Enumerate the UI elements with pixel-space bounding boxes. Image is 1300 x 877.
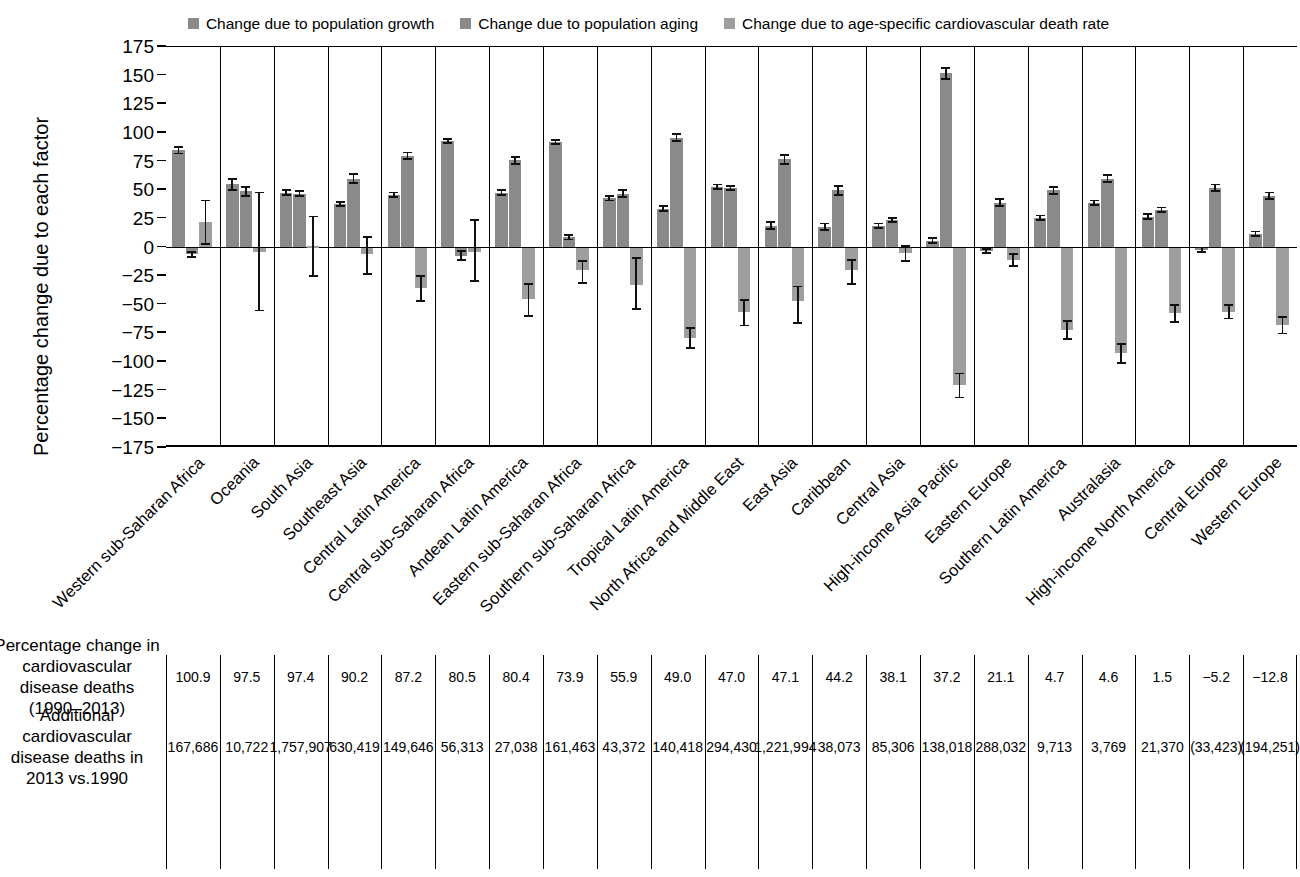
error-bar-cap-upper: [605, 195, 614, 197]
y-tick-mark: [157, 74, 166, 76]
bar-series2: [670, 138, 683, 248]
table-column-divider: [974, 655, 975, 869]
error-bar-cap-lower: [174, 153, 183, 155]
table-cell: 1.5: [1153, 669, 1172, 685]
bar-series1: [603, 198, 616, 247]
error-bar-cap-lower: [497, 194, 506, 196]
legend-item-3: Change due to age-specific cardiovascula…: [724, 16, 1109, 31]
bar-series1: [280, 193, 293, 248]
error-bar-cap-upper: [659, 205, 668, 207]
y-tick-label: 0: [143, 237, 154, 256]
error-bar-line: [1066, 321, 1068, 339]
error-bar-cap-lower: [255, 310, 264, 312]
error-bar-cap-lower: [766, 228, 775, 230]
error-bar-cap-upper: [295, 190, 304, 192]
error-bar-cap-lower: [847, 283, 856, 285]
error-bar-cap-upper: [228, 178, 237, 180]
table-cell: 44.2: [826, 669, 853, 685]
error-bar-cap-lower: [1170, 321, 1179, 323]
error-bar-cap-lower: [1036, 219, 1045, 221]
y-tick-label: −125: [111, 380, 154, 399]
table-cell: 43,372: [602, 739, 645, 755]
error-bar-cap-lower: [740, 325, 749, 327]
error-bar-cap-lower: [982, 252, 991, 254]
error-bar-line: [1282, 317, 1284, 333]
error-bar-cap-lower: [659, 210, 668, 212]
y-tick-label: 175: [122, 37, 154, 56]
bar-series1: [711, 187, 724, 248]
error-bar-cap-upper: [686, 327, 695, 329]
error-bar-cap-lower: [564, 239, 573, 241]
table-cell: −12.8: [1252, 669, 1287, 685]
table-cell: 10,722: [225, 739, 268, 755]
table-cell: 97.4: [287, 669, 314, 685]
bar-series3: [684, 248, 697, 339]
table-cell: 1,221,994: [754, 739, 816, 755]
error-bar-cap-lower: [416, 300, 425, 302]
table-cell: 87.2: [395, 669, 422, 685]
table-cell: 27,038: [495, 739, 538, 755]
y-tick-mark: [157, 446, 166, 448]
bar-series1: [226, 184, 239, 247]
error-bar-cap-upper: [793, 286, 802, 288]
error-bar-cap-lower: [726, 189, 735, 191]
bar-series1: [388, 195, 401, 248]
x-axis-label: Western sub-Saharan Africa: [49, 453, 208, 612]
table-column-divider: [543, 655, 544, 869]
error-bar-cap-lower: [1049, 193, 1058, 195]
table-cell: 38.1: [879, 669, 906, 685]
error-bar-cap-lower: [443, 142, 452, 144]
error-bar-cap-upper: [941, 67, 950, 69]
error-bar-cap-upper: [457, 250, 466, 252]
error-bar-cap-upper: [187, 251, 196, 253]
error-bar-cap-upper: [363, 236, 372, 238]
error-bar-line: [959, 374, 961, 398]
bar-series1: [172, 150, 185, 247]
bar-series2: [1155, 210, 1168, 248]
error-bar-cap-lower: [1090, 204, 1099, 206]
error-bar-line: [851, 260, 853, 284]
error-bar-cap-upper: [1170, 304, 1179, 306]
bar-series1: [657, 209, 670, 248]
error-bar-cap-upper: [1009, 253, 1018, 255]
y-tick-mark: [157, 160, 166, 162]
error-bar-line: [635, 258, 637, 310]
error-bar-cap-lower: [874, 227, 883, 229]
error-bar-cap-upper: [713, 184, 722, 186]
table-column-divider: [381, 655, 382, 869]
bar-series1: [334, 204, 347, 248]
bar-series2: [1101, 179, 1114, 248]
table-cell: 37.2: [933, 669, 960, 685]
table-cell: 630,419: [329, 739, 380, 755]
error-bar-cap-lower: [1265, 198, 1274, 200]
error-bar-cap-upper: [564, 234, 573, 236]
x-axis-labels: Western sub-Saharan AfricaOceaniaSouth A…: [166, 449, 1297, 649]
table-cell: 73.9: [556, 669, 583, 685]
bar-series2: [1209, 188, 1222, 248]
legend-item-1: Change due to population growth: [188, 16, 434, 31]
error-bar-cap-upper: [901, 245, 910, 247]
error-bar-cap-upper: [1049, 186, 1058, 188]
table-column-divider: [812, 655, 813, 869]
bar-series2: [240, 191, 253, 247]
error-bar-cap-lower: [470, 280, 479, 282]
legend-square-swatch: [188, 18, 199, 29]
table-row-label: Additional cardiovascular disease deaths…: [0, 705, 160, 789]
table-cell: 4.6: [1099, 669, 1118, 685]
error-bar-cap-upper: [309, 216, 318, 218]
error-bar-cap-upper: [282, 189, 291, 191]
y-tick-label: 75: [133, 151, 154, 170]
error-bar-cap-upper: [1197, 247, 1206, 249]
error-bar-cap-upper: [672, 133, 681, 135]
error-bar-line: [1174, 305, 1176, 322]
table-cell: 21,370: [1141, 739, 1184, 755]
y-tick-label: 125: [122, 94, 154, 113]
table-cell: 1,757,907: [269, 739, 331, 755]
table-column-divider: [705, 655, 706, 869]
table-column-divider: [328, 655, 329, 869]
table-cell: 4.7: [1045, 669, 1064, 685]
axis-bottom-line: [166, 445, 1297, 447]
bar-series3: [1061, 248, 1074, 330]
error-bar-cap-lower: [336, 205, 345, 207]
bar-series2: [293, 194, 306, 248]
